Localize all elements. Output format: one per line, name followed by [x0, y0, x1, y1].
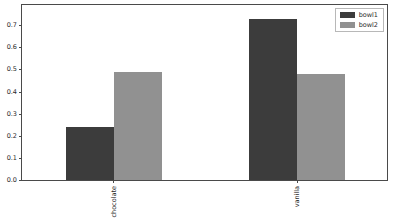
bar [297, 74, 345, 180]
legend-swatch [340, 12, 355, 18]
y-tick-label: 0.7 [7, 22, 17, 29]
y-tick-mark [19, 69, 22, 70]
y-tick-mark [19, 25, 22, 26]
legend-label: bowl1 [359, 12, 378, 19]
x-tick-label: vanilla [294, 186, 301, 207]
y-tick-mark [19, 158, 22, 159]
bar [66, 127, 114, 180]
bar-chart-figure: 0.00.10.20.30.40.50.60.7 chocolatevanill… [0, 0, 393, 221]
y-tick-mark [19, 180, 22, 181]
y-tick-label: 0.2 [7, 133, 17, 140]
y-tick-label: 0.3 [7, 110, 17, 117]
plot-area: 0.00.10.20.30.40.50.60.7 chocolatevanill… [21, 4, 388, 181]
legend-item: bowl2 [340, 22, 378, 29]
x-tick-label: chocolate [111, 186, 118, 218]
legend-swatch [340, 22, 355, 28]
y-tick-mark [19, 92, 22, 93]
x-tick-mark [297, 180, 298, 183]
y-tick-label: 0.4 [7, 88, 17, 95]
y-tick-mark [19, 47, 22, 48]
x-tick-mark [113, 180, 114, 183]
y-tick-label: 0.1 [7, 155, 17, 162]
legend-item: bowl1 [340, 12, 378, 19]
bar [114, 72, 162, 180]
y-tick-mark [19, 136, 22, 137]
bar [249, 19, 297, 181]
y-tick-label: 0.0 [7, 177, 17, 184]
y-tick-label: 0.6 [7, 44, 17, 51]
legend-label: bowl2 [359, 22, 378, 29]
legend: bowl1bowl2 [335, 8, 384, 32]
y-tick-label: 0.5 [7, 66, 17, 73]
y-tick-mark [19, 114, 22, 115]
